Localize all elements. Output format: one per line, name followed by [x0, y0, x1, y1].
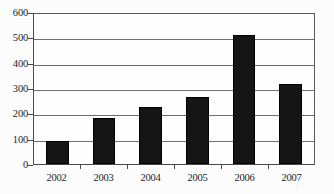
- bar-slot: [34, 14, 81, 164]
- y-tick-label-600: 600: [13, 8, 28, 18]
- bar-2003: [93, 118, 116, 164]
- x-tick-mark: [80, 165, 81, 169]
- x-tick-mark: [127, 165, 128, 169]
- bar-slot: [127, 14, 174, 164]
- y-tick-label-300: 300: [13, 84, 28, 94]
- bar-2004: [139, 107, 162, 164]
- x-axis: 200220032004200520062007: [33, 172, 315, 183]
- x-tick-label-2006: 2006: [221, 172, 268, 183]
- bar-slot: [267, 14, 314, 164]
- x-tick-label-2002: 2002: [33, 172, 80, 183]
- bar-slot: [81, 14, 128, 164]
- x-tick-mark: [268, 165, 269, 169]
- plot-area: [33, 13, 315, 165]
- bar-2007: [279, 84, 302, 164]
- bar-2006: [233, 35, 256, 164]
- x-tick-label-2007: 2007: [268, 172, 315, 183]
- bar-series: [34, 14, 314, 164]
- x-tick-label-2005: 2005: [174, 172, 221, 183]
- x-axis-ticks: [33, 165, 315, 170]
- bar-2002: [46, 141, 69, 164]
- bar-chart-figure: 0100200300400500600 20022003200420052006…: [0, 0, 334, 194]
- bar-slot: [174, 14, 221, 164]
- x-tick-mark: [174, 165, 175, 169]
- x-tick-mark: [221, 165, 222, 169]
- x-tick-label-2004: 2004: [127, 172, 174, 183]
- y-tick-label-200: 200: [13, 109, 28, 119]
- y-tick-label-400: 400: [13, 59, 28, 69]
- bar-slot: [221, 14, 268, 164]
- bar-2005: [186, 97, 209, 164]
- x-tick-label-2003: 2003: [80, 172, 127, 183]
- y-tick-label-500: 500: [13, 33, 28, 43]
- y-axis: 0100200300400500600: [0, 0, 31, 194]
- y-tick-label-100: 100: [13, 135, 28, 145]
